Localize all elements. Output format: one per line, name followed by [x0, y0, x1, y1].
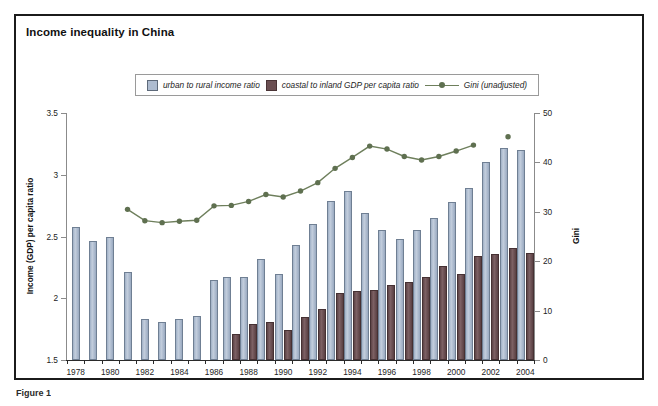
y-axis-right-tick-label: 40 [543, 157, 552, 167]
gini-data-point [263, 192, 268, 197]
x-axis-tick [326, 360, 327, 364]
gini-data-point [125, 207, 130, 212]
x-axis-tick-label: 2002 [482, 367, 500, 377]
y-axis-right-tick: 40 [535, 162, 540, 163]
gini-data-point [332, 166, 337, 171]
y-axis-right-line [534, 113, 535, 360]
plot-area: 1978198019821984198619881990199219941996… [67, 113, 534, 360]
y-axis-left-tick-label: 3 [53, 170, 58, 180]
y-axis-left-tick: 2.5 [61, 237, 66, 238]
y-axis-right-tick-label: 30 [543, 207, 552, 217]
gini-data-point [367, 143, 372, 148]
gini-data-point [436, 154, 441, 159]
x-axis-tick-label: 1998 [412, 367, 430, 377]
x-axis-tick [240, 360, 241, 364]
blue-square-swatch-icon [147, 80, 158, 91]
y-axis-right-tick: 0 [535, 360, 540, 361]
x-axis-tick-label: 2000 [447, 367, 465, 377]
x-axis-tick [171, 360, 172, 364]
x-axis-tick [223, 360, 224, 364]
y-axis-right-title: Gini [571, 228, 581, 244]
line-with-dot-icon [425, 81, 459, 90]
gini-data-point [402, 154, 407, 159]
x-axis-tick [448, 360, 449, 364]
gini-data-point [142, 218, 147, 223]
y-axis-right-tick: 10 [535, 311, 540, 312]
gini-data-point [350, 155, 355, 160]
x-axis-tick [534, 360, 535, 364]
x-axis-tick [413, 360, 414, 364]
y-axis-right-tick: 20 [535, 261, 540, 262]
y-axis-right-tick: 30 [535, 212, 540, 213]
y-axis-right-tick-label: 50 [543, 108, 552, 118]
legend-label-gini: Gini (unadjusted) [464, 80, 527, 90]
maroon-square-swatch-icon [266, 80, 277, 91]
x-axis-tick [292, 360, 293, 364]
y-axis-right-tick-label: 20 [543, 256, 552, 266]
x-axis-tick [188, 360, 189, 364]
x-axis-tick [84, 360, 85, 364]
chart-legend: urban to rural income ratio coastal to i… [135, 74, 539, 96]
gini-data-point [315, 180, 320, 185]
x-axis-tick [136, 360, 137, 364]
x-axis-tick-label: 1992 [309, 367, 327, 377]
legend-label-coastal-inland: coastal to inland GDP per capita ratio [282, 80, 419, 90]
x-axis-tick [430, 360, 431, 364]
gini-data-point [453, 148, 458, 153]
x-axis-tick-label: 1984 [170, 367, 188, 377]
x-axis-tick [275, 360, 276, 364]
x-axis-tick-label: 2004 [516, 367, 534, 377]
x-axis-tick [482, 360, 483, 364]
x-axis-tick [309, 360, 310, 364]
y-axis-left-tick-label: 3.5 [46, 108, 58, 118]
page-title: Income inequality in China [26, 26, 174, 38]
gini-data-point [281, 194, 286, 199]
gini-data-point [471, 142, 476, 147]
y-axis-left-tick: 3 [61, 175, 66, 176]
y-axis-left-tick-label: 2 [53, 293, 58, 303]
y-axis-left-title: Income (GDP) per capita ratio [25, 178, 35, 295]
gini-data-point [384, 146, 389, 151]
x-axis-tick [517, 360, 518, 364]
gini-data-point [298, 188, 303, 193]
y-axis-left-tick-label: 2.5 [46, 232, 58, 242]
x-axis-tick [378, 360, 379, 364]
gini-data-point [246, 199, 251, 204]
legend-item-urban-rural: urban to rural income ratio [147, 80, 260, 91]
gini-data-point [505, 134, 510, 139]
x-axis-tick [344, 360, 345, 364]
x-axis-tick [102, 360, 103, 364]
y-axis-left-tick: 1.5 [61, 360, 66, 361]
x-axis-tick [396, 360, 397, 364]
figure-root: Income inequality in China urban to rura… [0, 0, 658, 406]
x-axis-tick-label: 1996 [378, 367, 396, 377]
gini-data-point [419, 157, 424, 162]
gini-data-point [194, 217, 199, 222]
x-axis-tick [465, 360, 466, 364]
figure-caption: Figure 1 [16, 388, 51, 402]
gini-data-point [177, 218, 182, 223]
x-axis-tick-label: 1980 [101, 367, 119, 377]
y-axis-left-tick: 3.5 [61, 113, 66, 114]
x-axis-tick [119, 360, 120, 364]
y-axis-right-tick: 50 [535, 113, 540, 114]
y-axis-right-tick-label: 0 [543, 355, 548, 365]
x-axis-tick [205, 360, 206, 364]
legend-label-urban-rural: urban to rural income ratio [163, 80, 260, 90]
y-axis-left-tick-label: 1.5 [46, 355, 58, 365]
gini-line-series [67, 113, 534, 360]
gini-data-point [211, 203, 216, 208]
y-axis-left-tick: 2 [61, 298, 66, 299]
legend-item-gini: Gini (unadjusted) [425, 80, 527, 90]
legend-item-coastal-inland: coastal to inland GDP per capita ratio [266, 80, 419, 91]
x-axis-tick-label: 1988 [239, 367, 257, 377]
gini-line-path [128, 145, 474, 223]
x-axis-tick-label: 1982 [136, 367, 154, 377]
x-axis-tick-label: 1978 [66, 367, 84, 377]
y-axis-right-tick-label: 10 [543, 306, 552, 316]
x-axis-tick-label: 1990 [274, 367, 292, 377]
x-axis-tick-label: 1986 [205, 367, 223, 377]
gini-data-point [229, 203, 234, 208]
x-axis-tick [361, 360, 362, 364]
x-axis-tick [499, 360, 500, 364]
